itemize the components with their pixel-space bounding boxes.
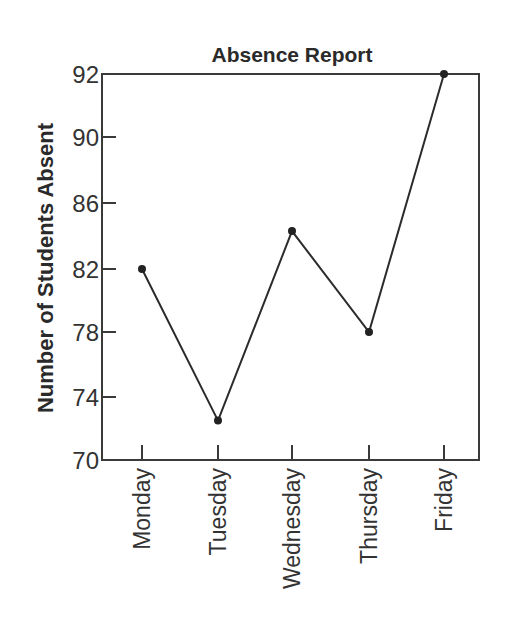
data-point-friday [440, 70, 448, 78]
y-axis-ticks: 70747882869092 [72, 61, 116, 474]
series-line [142, 74, 444, 421]
y-tick-label: 78 [72, 319, 99, 346]
x-axis-ticks: MondayTuesdayWednesdayThursdayFriday [129, 445, 457, 589]
y-tick-label: 86 [72, 190, 99, 217]
data-point-thursday [365, 328, 373, 336]
x-tick-label-tuesday: Tuesday [205, 468, 231, 556]
data-point-tuesday [214, 417, 222, 425]
y-axis-label: Number of Students Absent [33, 122, 58, 413]
y-tick-label: 74 [72, 384, 99, 411]
data-point-monday [138, 265, 146, 273]
y-tick-label: 70 [72, 447, 99, 474]
x-tick-label-thursday: Thursday [356, 468, 382, 564]
data-markers [138, 70, 448, 425]
x-tick-label-friday: Friday [431, 468, 457, 532]
y-tick-label: 90 [72, 124, 99, 151]
line-chart: Absence Report Number of Students Absent… [0, 0, 506, 629]
y-tick-label: 82 [72, 256, 99, 283]
data-point-wednesday [288, 227, 296, 235]
plot-frame [102, 74, 479, 460]
y-tick-label: 92 [72, 61, 99, 88]
x-tick-label-wednesday: Wednesday [279, 468, 305, 590]
x-tick-label-monday: Monday [129, 468, 155, 550]
chart-title: Absence Report [211, 43, 372, 66]
